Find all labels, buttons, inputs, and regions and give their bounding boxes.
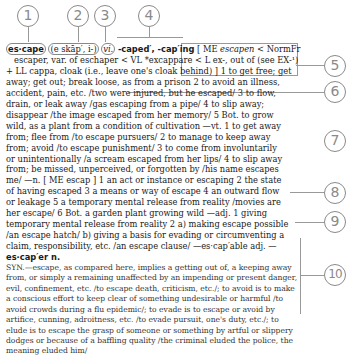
entry-line: or leakage 5 a temporary mental release … bbox=[6, 197, 304, 208]
syn-line: artifice, cunning, adroitness, etc. /to … bbox=[6, 315, 304, 325]
callout-2-leader bbox=[78, 27, 79, 42]
callout-3: 3 bbox=[94, 5, 116, 27]
entry-line: of having escaped 3 a means or way of es… bbox=[6, 186, 304, 197]
entry-line: from; avoid /to escape punishment/ 3 to … bbox=[6, 143, 304, 154]
synonym-note: SYN.—escape, as compared here, implies a… bbox=[6, 263, 304, 357]
inflections: -caped′, -cap′ing bbox=[118, 44, 194, 54]
syn-line: a conscious effort to keep clear of some… bbox=[6, 294, 304, 304]
syn-line: meaning eluded him/ bbox=[6, 346, 304, 356]
entry-line: + LL cappa, cloak (i.e., leave one's clo… bbox=[6, 66, 304, 77]
callout-7: 7 bbox=[324, 130, 346, 152]
part-of-speech: vi. bbox=[101, 43, 115, 55]
entry-line: claim, responsibility, etc. /an escape c… bbox=[6, 241, 304, 252]
entry-line: es·cap′er n. bbox=[6, 252, 304, 263]
entry-line: her escape/ 6 Bot. a garden plant growin… bbox=[6, 208, 304, 219]
entry-line: me/ —n. [ ME escap ] 1 an act or instanc… bbox=[6, 175, 304, 186]
dictionary-entry: es·cape (e skāp′, i-) vi. -caped′, -cap′… bbox=[6, 44, 304, 357]
entry-line: drain, or leak away /gas escaping from a… bbox=[6, 99, 304, 110]
syn-line: SYN.—escape, as compared here, implies a… bbox=[6, 263, 304, 273]
entry-line: from; be missed, unperceived, or forgott… bbox=[6, 164, 304, 175]
callout-10: 10 bbox=[324, 264, 346, 286]
entry-line: /an escape hatch/ b) giving a basis for … bbox=[6, 230, 304, 241]
callout-4-bracket bbox=[117, 37, 183, 38]
callout-5: 5 bbox=[324, 55, 346, 77]
callout-4-leader bbox=[149, 27, 150, 37]
callout-9: 9 bbox=[324, 211, 346, 233]
callout-8: 8 bbox=[324, 182, 346, 204]
syn-line: elude is to escape the grasp of someone … bbox=[6, 326, 304, 336]
callout-1-leader bbox=[28, 27, 29, 42]
entry-line: escaper, var. of eschaper < VL *excappar… bbox=[6, 55, 304, 66]
callout-4: 4 bbox=[138, 5, 160, 27]
entry-line: or unintentionally /a scream escaped fro… bbox=[6, 154, 304, 165]
entry-line: wild, as a plant from a condition of cul… bbox=[6, 121, 304, 132]
syn-line: avoid crowds during a flu epidemic/; to … bbox=[6, 305, 304, 315]
headword: es·cape bbox=[6, 43, 46, 55]
pronunciation: (e skāp′, i-) bbox=[48, 43, 98, 55]
etymology-start: [ ME escapen < NormFr bbox=[197, 44, 300, 54]
entry-line: away; get out; break loose, as from a pr… bbox=[6, 77, 304, 88]
entry-line: disappear /the image escaped from her me… bbox=[6, 110, 304, 121]
callout-1: 1 bbox=[17, 5, 39, 27]
callout-6: 6 bbox=[324, 81, 346, 103]
callout-2: 2 bbox=[67, 5, 89, 27]
entry-first-line: es·cape (e skāp′, i-) vi. -caped′, -cap′… bbox=[6, 44, 304, 55]
callout-3-leader bbox=[105, 27, 106, 42]
entry-line: from; flee from /to escape pursuers/ 2 t… bbox=[6, 132, 304, 143]
entry-line: accident, pain, etc. /two were injured, … bbox=[6, 88, 304, 99]
syn-line: from, or simply a remaining unaffected b… bbox=[6, 273, 304, 283]
syn-line: dodges or because of a baffling quality … bbox=[6, 336, 304, 346]
syn-line: evil, confinement, etc. /to escape death… bbox=[6, 284, 304, 294]
entry-line: temporary mental release from reality 2 … bbox=[6, 219, 304, 230]
